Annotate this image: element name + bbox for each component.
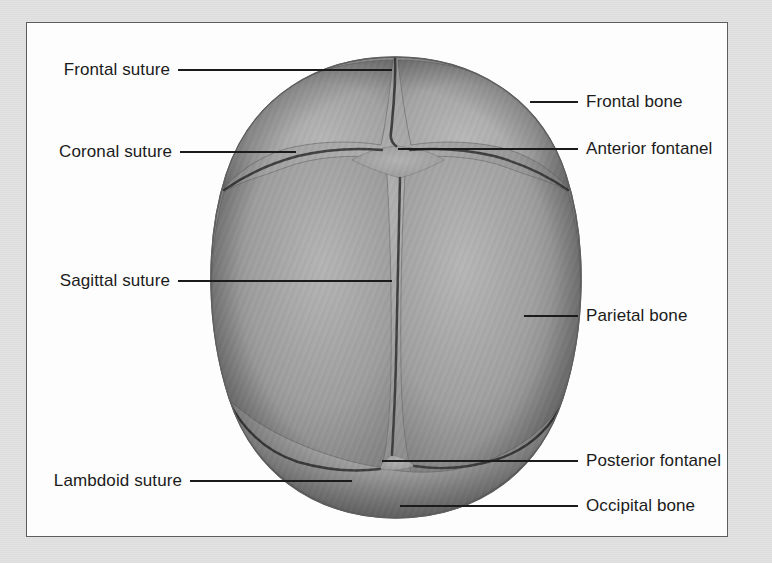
figure-root: Frontal suture Coronal suture Sagittal s… <box>0 0 772 563</box>
label-coronal-suture: Coronal suture <box>59 142 172 162</box>
cranium-group <box>200 50 592 528</box>
label-frontal-suture: Frontal suture <box>64 60 170 80</box>
label-frontal-bone: Frontal bone <box>586 92 683 112</box>
label-anterior-fontanel: Anterior fontanel <box>586 139 712 159</box>
label-occipital-bone: Occipital bone <box>586 496 695 516</box>
label-parietal-bone: Parietal bone <box>586 306 687 326</box>
bone-rim-shading <box>200 50 592 528</box>
label-sagittal-suture: Sagittal suture <box>60 271 170 291</box>
label-posterior-fontanel: Posterior fontanel <box>586 451 721 471</box>
label-lambdoid-suture: Lambdoid suture <box>54 471 182 491</box>
